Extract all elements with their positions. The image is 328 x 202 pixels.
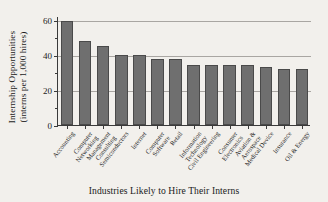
x-tick	[85, 125, 86, 129]
x-tick	[302, 125, 303, 129]
x-tick	[67, 125, 68, 129]
y-tick-minor-30	[55, 73, 58, 74]
y-tick-minor-50	[55, 38, 58, 39]
bar-chart-figure: Internship Opportunities (interns per 1,…	[0, 0, 328, 202]
bar	[61, 21, 74, 125]
x-tick	[212, 125, 213, 129]
bar	[223, 65, 236, 125]
y-tick-label-40: 40	[43, 51, 52, 61]
bar	[115, 55, 128, 125]
bar	[205, 65, 218, 125]
bar	[169, 59, 182, 125]
bar	[278, 69, 291, 125]
x-tick	[266, 125, 267, 129]
plot-area: 0204060	[57, 17, 310, 126]
x-tick	[230, 125, 231, 129]
x-tick	[175, 125, 176, 129]
bar	[260, 67, 273, 125]
bar	[296, 69, 309, 125]
y-tick-label-20: 20	[43, 86, 52, 96]
x-tick	[284, 125, 285, 129]
gridline-60	[58, 21, 311, 22]
y-tick-label-60: 60	[43, 16, 52, 26]
y-tick-0	[54, 126, 59, 127]
x-tick	[121, 125, 122, 129]
y-tick-minor-10	[55, 108, 58, 109]
bar	[187, 65, 200, 125]
y-axis-title-line1: Internship Opportunities	[7, 11, 18, 143]
x-tick	[139, 125, 140, 129]
y-axis-title: Internship Opportunities (interns per 1,…	[7, 11, 37, 143]
bar	[79, 41, 92, 125]
x-tick	[103, 125, 104, 129]
y-tick-40	[54, 56, 59, 57]
y-tick-20	[54, 91, 59, 92]
bar	[151, 59, 164, 125]
y-tick-label-0: 0	[48, 121, 53, 131]
bar	[133, 55, 146, 125]
bar	[241, 65, 254, 125]
x-tick	[248, 125, 249, 129]
x-tick	[194, 125, 195, 129]
y-tick-60	[54, 21, 59, 22]
x-tick	[157, 125, 158, 129]
bar	[97, 46, 110, 125]
y-axis-title-line2: (interns per 1,000 hires)	[18, 11, 29, 143]
